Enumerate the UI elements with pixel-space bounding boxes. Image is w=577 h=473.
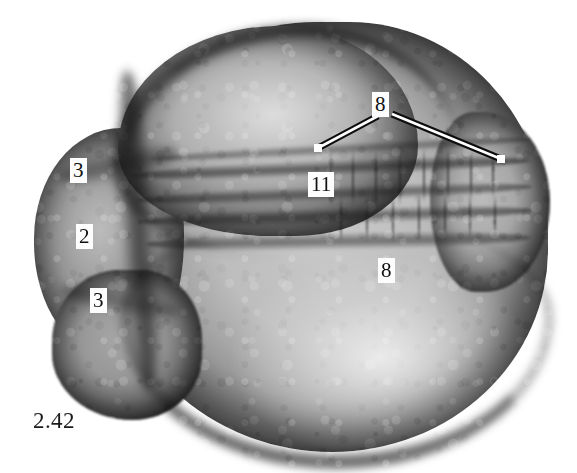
annotation-label-3-upper: 3 [70, 158, 87, 183]
figure-container: 3238118 2.42 [0, 0, 577, 473]
annotation-label-2: 2 [76, 224, 93, 249]
annotation-label-8-lower: 8 [378, 258, 395, 283]
annotation-label-11: 11 [308, 172, 334, 197]
specimen-left-lower-lobe [52, 270, 202, 420]
annotation-label-8-top: 8 [372, 92, 389, 117]
specimen-upper-anterior-lobe [118, 26, 418, 236]
figure-caption-number: 2.42 [33, 408, 75, 434]
annotation-label-3-lower: 3 [90, 288, 107, 313]
